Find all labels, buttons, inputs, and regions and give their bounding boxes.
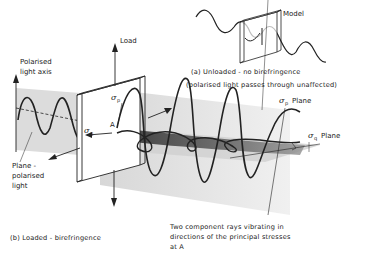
polarised-axis-label-2: light axis (20, 68, 52, 76)
load-down-arrowhead (111, 198, 117, 207)
load-up-arrowhead (112, 43, 118, 52)
sigma-q-plane-text: Plane (321, 132, 340, 140)
sigma-p-plane-label: σ p Plane (279, 96, 311, 107)
rays-caption-2: directions of the principal stresses (170, 233, 291, 241)
sigma-p-plane-subscript: p (285, 100, 288, 107)
panel-a-caption-line2: (polarised light passes through unaffect… (186, 81, 337, 89)
panel-b-caption: (b) Loaded - birefringence (10, 234, 101, 242)
point-a-label: A (110, 121, 115, 129)
panel-a-caption-line1: (a) Unloaded - no birefringence (191, 68, 301, 76)
sigma-q-plane-subscript: q (314, 135, 317, 142)
birefringence-diagram: Model (a) Unloaded - no birefringence (p… (0, 0, 377, 263)
rays-caption-1: Two component rays vibrating in (169, 223, 284, 231)
rays-caption-3: at A (170, 243, 184, 251)
plane-label-1: Plane - (12, 162, 36, 170)
left-arrow-head (48, 154, 57, 160)
panel-b-loaded: Load Polarised light axis Plane - polari… (10, 0, 340, 251)
sigma-p-plane-text: Plane (292, 97, 311, 105)
model-plate-a (240, 10, 281, 63)
sigma-p-subscript: p (117, 97, 120, 104)
model-label: Model (283, 10, 304, 18)
plane-label-3: light (12, 182, 28, 190)
load-label: Load (120, 37, 137, 45)
panel-a-unloaded: Model (a) Unloaded - no birefringence (p… (186, 10, 337, 89)
polarised-axis-arrowhead (13, 74, 19, 83)
sigma-q-plane-label: σ q Plane (308, 131, 340, 142)
plane-label-2: polarised (12, 172, 44, 180)
polarised-axis-label-1: Polarised (20, 58, 52, 66)
sigma-q-subscript: q (90, 130, 93, 137)
